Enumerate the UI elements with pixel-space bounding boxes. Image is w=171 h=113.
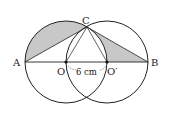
point-o (64, 60, 67, 63)
geometry-figure: A B C O O′ 6 cm (0, 0, 171, 113)
label-o: O (57, 66, 65, 77)
label-o-prime: O′ (107, 66, 118, 77)
measurement-dash-right (100, 66, 106, 70)
measurement-dash-left (68, 66, 76, 70)
shaded-segment-left (25, 21, 87, 62)
label-a: A (12, 57, 21, 68)
point-o-prime (105, 60, 108, 63)
label-c: C (82, 15, 90, 26)
diagram-canvas: A B C O O′ 6 cm (0, 0, 171, 113)
label-b: B (151, 57, 158, 68)
label-measurement: 6 cm (76, 67, 97, 77)
